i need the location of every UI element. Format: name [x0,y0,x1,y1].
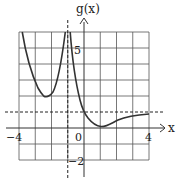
x-tick-4: 4 [145,131,152,144]
x-axis-label: x [168,121,175,135]
y-tick-5: 5 [74,44,81,57]
axes [6,18,165,177]
x-tick-0: 0 [75,131,82,144]
y-tick-neg2: −2 [68,155,84,168]
graph-of-g: g(x) x −4 0 4 5 −2 [0,0,183,181]
x-tick-neg4: −4 [6,131,22,144]
y-axis-label: g(x) [76,2,100,16]
